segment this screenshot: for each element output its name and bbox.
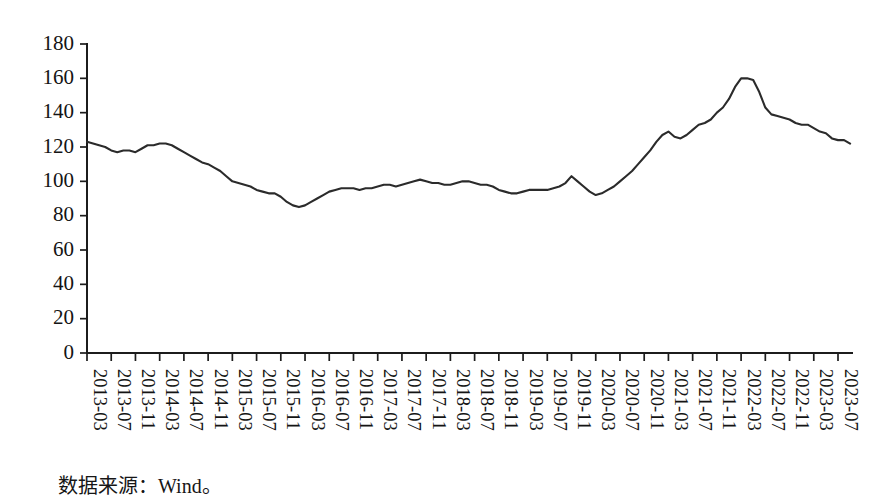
x-tick-label: 2013-03: [90, 369, 110, 431]
x-tick-label: 2019-11: [574, 369, 594, 430]
x-tick-label: 2022-11: [792, 369, 812, 430]
x-tick-label: 2013-07: [114, 369, 134, 431]
x-tick-label: 2017-11: [429, 369, 449, 430]
line-chart: 0204060801001201401601802013-032013-0720…: [0, 0, 875, 504]
y-tick-label: 60: [53, 237, 74, 261]
x-tick-label: 2021-11: [719, 369, 739, 430]
chart-figure: 0204060801001201401601802013-032013-0720…: [0, 0, 875, 504]
y-tick-label: 120: [43, 134, 75, 158]
x-tick-label: 2020-07: [622, 369, 642, 431]
x-tick-label: 2014-07: [186, 369, 206, 431]
x-tick-label: 2020-11: [647, 369, 667, 430]
x-tick-label: 2015-03: [235, 369, 255, 431]
y-tick-label: 160: [43, 65, 75, 89]
x-tick-label: 2019-07: [550, 369, 570, 431]
x-tick-label: 2022-07: [768, 369, 788, 431]
x-tick-label: 2016-07: [332, 369, 352, 431]
x-tick-label: 2021-03: [671, 369, 691, 431]
x-tick-label: 2015-11: [283, 369, 303, 430]
x-tick-label: 2017-03: [380, 369, 400, 431]
y-tick-label: 80: [53, 202, 74, 226]
x-tick-label: 2023-07: [841, 369, 861, 431]
x-tick-label: 2015-07: [259, 369, 279, 431]
x-tick-label: 2021-07: [695, 369, 715, 431]
y-tick-label: 40: [53, 271, 74, 295]
x-tick-label: 2022-03: [744, 369, 764, 431]
y-tick-label: 140: [43, 99, 75, 123]
y-tick-label: 20: [53, 305, 74, 329]
x-tick-label: 2016-03: [308, 369, 328, 431]
x-tick-label: 2018-07: [477, 369, 497, 431]
y-tick-label: 0: [64, 340, 75, 364]
x-tick-label: 2018-03: [453, 369, 473, 431]
x-tick-label: 2014-11: [211, 369, 231, 430]
x-tick-label: 2018-11: [501, 369, 521, 430]
x-tick-label: 2016-11: [356, 369, 376, 430]
y-tick-label: 180: [43, 31, 75, 55]
x-tick-label: 2020-03: [598, 369, 618, 431]
x-tick-label: 2017-07: [404, 369, 424, 431]
x-tick-label: 2013-11: [138, 369, 158, 430]
x-tick-label: 2019-03: [526, 369, 546, 431]
data-series-line: [87, 78, 850, 207]
source-note: 数据来源：Wind。: [58, 470, 222, 499]
x-tick-label: 2023-03: [816, 369, 836, 431]
x-tick-label: 2014-03: [162, 369, 182, 431]
y-tick-label: 100: [43, 168, 75, 192]
